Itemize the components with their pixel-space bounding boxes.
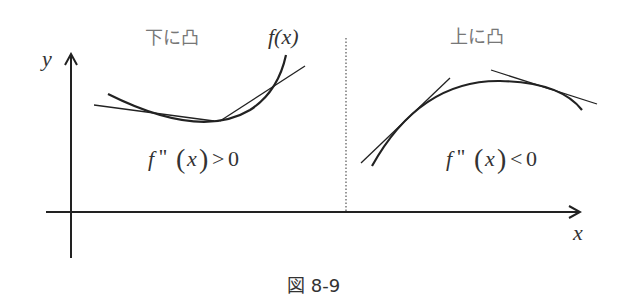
- svg-text:<: <: [510, 146, 522, 171]
- svg-text:0: 0: [228, 146, 239, 171]
- svg-text:0: 0: [526, 146, 537, 171]
- left-condition: f '' ( x ) > 0: [148, 143, 239, 174]
- right-title: 上に凸: [450, 26, 504, 47]
- left-title: 下に凸: [145, 27, 199, 48]
- tangent-line-left-1: [94, 105, 214, 121]
- figure-caption: 図 8-9: [287, 275, 340, 296]
- right-condition: f '' ( x ) < 0: [446, 143, 537, 174]
- svg-text:): ): [497, 143, 506, 174]
- svg-text:): ): [199, 143, 208, 174]
- svg-text:f: f: [148, 146, 157, 171]
- convexity-diagram: y x 下に凸 f(x) f '' ( x ) > 0 上に凸 f '' ( x…: [0, 0, 638, 302]
- svg-text:'': '': [457, 144, 465, 169]
- convex-down-curve: [108, 55, 286, 122]
- tangent-line-left-2: [220, 66, 305, 121]
- tangent-line-right-1: [361, 78, 450, 163]
- svg-text:>: >: [212, 146, 224, 171]
- svg-text:'': '': [159, 144, 167, 169]
- function-label: f(x): [268, 24, 299, 49]
- y-axis-label: y: [40, 46, 52, 71]
- svg-text:(: (: [474, 143, 483, 174]
- svg-text:(: (: [176, 143, 185, 174]
- svg-text:f: f: [446, 146, 455, 171]
- svg-text:x: x: [186, 146, 197, 171]
- tangent-line-right-2: [491, 70, 597, 104]
- x-axis-label: x: [572, 220, 583, 245]
- svg-text:x: x: [484, 146, 495, 171]
